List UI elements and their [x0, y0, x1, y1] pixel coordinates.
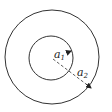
inner-circle: [29, 36, 73, 80]
outer-circle: [5, 10, 99, 104]
inner-radius-label: a1: [54, 48, 65, 62]
outer-radius-label: a2: [77, 66, 89, 80]
concentric-circles-diagram: a1 a2: [0, 0, 112, 112]
inner-radius-arrow: [66, 51, 71, 53]
